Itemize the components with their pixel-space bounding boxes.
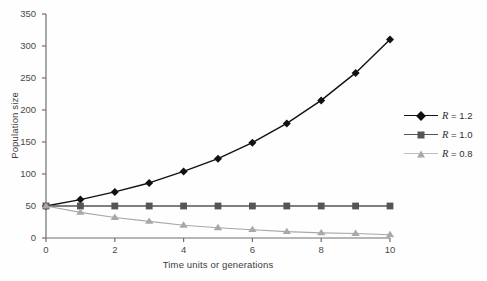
legend-item-r-1-0[interactable]: R = 1.0 [404,125,484,144]
legend-swatch-square [404,128,438,142]
data-point-marker [248,139,256,147]
series-line-3 [46,206,390,235]
legend-item-r-1-2[interactable]: R = 1.2 [404,106,484,125]
data-point-marker [248,226,256,232]
data-point-marker [317,229,325,235]
legend-swatch-triangle [404,147,438,161]
data-point-marker [111,188,119,196]
data-point-marker [387,203,394,210]
legend-value-r-0-8: = 0.8 [448,148,472,159]
data-point-marker [146,203,153,210]
legend-item-r-0-8[interactable]: R = 0.8 [404,144,484,163]
data-point-marker [283,203,290,210]
data-point-marker [351,230,359,236]
data-point-marker [352,203,359,210]
legend-label-r-0-8: R = 0.8 [442,148,472,159]
data-point-marker [77,203,84,210]
data-point-marker [283,119,291,127]
data-point-marker [180,167,188,175]
legend-label-r-1-2: R = 1.2 [442,110,472,121]
chart-figure: Population size Time units or generation… [0,0,487,281]
legend-value-r-1-2: = 1.2 [448,110,472,121]
legend-label-r-1-0: R = 1.0 [442,129,472,140]
legend-swatch-diamond [404,109,438,123]
data-point-marker [180,203,187,210]
series-line-1 [46,40,390,206]
data-point-marker [283,228,291,234]
data-point-marker [214,155,222,163]
data-point-marker [249,203,256,210]
legend-value-r-1-0: = 1.0 [448,129,472,140]
data-point-marker [76,196,84,204]
data-point-marker [215,203,222,210]
chart-legend: R = 1.2 R = 1.0 R = 0.8 [404,106,484,163]
data-point-marker [111,203,118,210]
data-point-marker [318,203,325,210]
data-point-marker [145,179,153,187]
data-point-marker [386,231,394,237]
